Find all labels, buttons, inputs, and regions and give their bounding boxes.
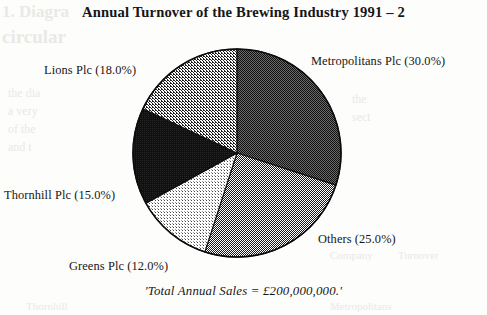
pie-label-lions: Lions Plc (18.0%) bbox=[44, 63, 136, 78]
pie-label-greens: Greens Plc (12.0%) bbox=[69, 259, 168, 274]
pie-label-others: Others (25.0%) bbox=[318, 232, 396, 247]
figure-page: 1. Diagra circular the dia a very of the… bbox=[0, 0, 487, 315]
pie-chart-svg bbox=[131, 38, 343, 268]
pie-label-metropolitans: Metropolitans Plc (30.0%) bbox=[311, 54, 445, 69]
chart-caption: 'Total Annual Sales = £200,000,000.' bbox=[0, 284, 487, 299]
pie-chart: Metropolitans Plc (30.0%) Lions Plc (18.… bbox=[0, 0, 487, 315]
pie-label-thornhill: Thornhill Plc (15.0%) bbox=[4, 188, 115, 203]
